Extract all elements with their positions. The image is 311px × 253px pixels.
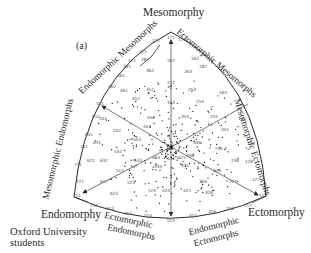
data-point — [145, 195, 146, 196]
data-point — [145, 183, 146, 184]
data-point — [216, 175, 217, 176]
data-point — [224, 174, 225, 175]
data-point — [176, 177, 177, 178]
data-point — [162, 142, 163, 143]
data-point — [167, 145, 168, 146]
data-point — [162, 186, 163, 187]
data-point — [199, 132, 200, 133]
data-point — [129, 175, 130, 176]
data-point — [176, 142, 177, 143]
somatotype-code: 741 — [80, 144, 88, 149]
data-point — [212, 132, 213, 133]
data-point — [211, 109, 212, 110]
data-point — [166, 149, 167, 150]
data-point — [167, 150, 168, 151]
data-point — [124, 142, 125, 143]
data-point — [171, 146, 172, 147]
data-point — [140, 112, 141, 113]
data-point — [152, 143, 153, 144]
data-point — [191, 140, 192, 141]
data-point — [155, 164, 156, 165]
data-point — [153, 166, 154, 167]
data-point — [159, 203, 160, 204]
data-point — [170, 175, 171, 176]
data-point — [204, 162, 205, 163]
data-point — [154, 95, 155, 96]
data-point — [153, 123, 154, 124]
data-point — [228, 151, 229, 152]
data-point — [186, 150, 187, 151]
data-point — [165, 156, 166, 157]
data-point — [134, 191, 135, 192]
data-point — [129, 177, 130, 178]
data-point — [125, 162, 126, 163]
data-point — [209, 139, 210, 140]
data-point — [170, 182, 171, 183]
data-point — [186, 147, 187, 148]
data-point — [171, 148, 172, 149]
data-point — [152, 169, 153, 170]
data-point — [158, 84, 159, 85]
data-point — [208, 112, 209, 113]
somatotype-code: 631 — [93, 140, 101, 145]
data-point — [129, 139, 130, 140]
data-point — [226, 169, 227, 170]
somatotype-code: 362 — [146, 68, 154, 73]
data-point — [135, 101, 136, 102]
somatotype-code: 542 — [113, 128, 121, 133]
data-point — [179, 146, 180, 147]
data-point — [193, 137, 194, 138]
somatotype-code: 461 — [120, 88, 128, 93]
data-point — [175, 151, 176, 152]
data-point — [156, 133, 157, 134]
data-point — [226, 180, 227, 181]
data-point — [152, 97, 153, 98]
data-point — [171, 193, 172, 194]
data-point — [157, 100, 158, 101]
data-point — [168, 112, 169, 113]
data-point — [162, 120, 163, 121]
data-point — [141, 107, 142, 108]
data-point — [198, 162, 199, 163]
data-point — [157, 135, 158, 136]
data-point — [131, 165, 132, 166]
data-point — [190, 140, 191, 141]
data-point — [169, 148, 170, 149]
data-point — [136, 165, 137, 166]
somatotype-code: 543 — [133, 137, 141, 142]
data-point — [195, 135, 196, 136]
somatotype-code: 326 — [199, 179, 207, 184]
vertex-label-ectomorphy: Ectomorphy — [248, 206, 305, 218]
data-point — [217, 164, 218, 165]
data-point — [146, 211, 147, 212]
data-point — [156, 181, 157, 182]
data-point — [186, 151, 187, 152]
data-point — [183, 147, 184, 148]
data-point — [197, 146, 198, 147]
data-point — [172, 147, 173, 148]
data-point — [143, 170, 144, 171]
data-point — [145, 162, 146, 163]
data-point — [176, 136, 177, 137]
data-point — [195, 192, 196, 193]
somatotype-code: 424 — [162, 188, 170, 193]
data-point — [171, 167, 172, 168]
data-point — [133, 177, 134, 178]
data-point — [211, 124, 212, 125]
data-point — [98, 123, 99, 124]
data-point — [176, 88, 177, 89]
data-point — [212, 195, 213, 196]
data-point — [192, 176, 193, 177]
data-point — [231, 171, 232, 172]
data-point — [164, 142, 165, 143]
data-point — [131, 138, 132, 139]
somatotype-code: 632 — [100, 158, 108, 163]
data-point — [139, 88, 140, 89]
data-point — [168, 86, 169, 87]
data-point — [161, 153, 162, 154]
somatotype-code: 721 — [76, 179, 84, 184]
data-point — [112, 103, 113, 104]
data-point — [95, 140, 96, 141]
data-point — [199, 151, 200, 152]
somatotype-code: 641 — [85, 132, 93, 137]
